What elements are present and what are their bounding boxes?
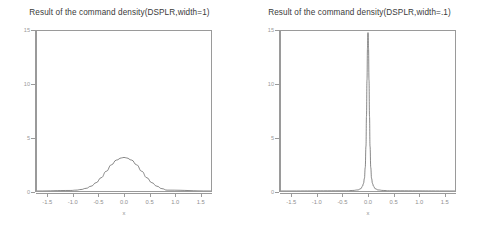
x-tick-mark [124,193,125,197]
x-tick-mark [73,193,74,197]
density-curve-right-wrap [281,31,455,191]
plot-panel-right: Result of the command density(DSPLR,widt… [240,0,479,228]
y-tick-label: 5 [258,135,274,141]
x-tick-label: -1.5 [34,199,60,205]
x-tick-label: -0.5 [329,199,355,205]
density-curve-left [37,31,211,191]
x-tick-mark [291,193,292,197]
y-tick-mark [31,84,35,85]
x-tick-mark [394,193,395,197]
x-tick-label: -1.5 [278,199,304,205]
x-tick-mark [98,193,99,197]
y-tick-label: 5 [14,135,30,141]
y-axis-line-right [279,30,280,192]
x-tick-mark [201,193,202,197]
y-tick-label: 15 [14,27,30,33]
x-tick-label: 0.0 [111,199,137,205]
x-tick-mark [368,193,369,197]
y-tick-label: 15 [258,27,274,33]
y-tick-mark [275,192,279,193]
y-tick-mark [31,30,35,31]
plot-title-right: Result of the command density(DSPLR,widt… [240,8,479,17]
x-tick-mark [445,193,446,197]
x-tick-label: 0.0 [355,199,381,205]
x-tick-mark [175,193,176,197]
y-tick-label: 10 [258,81,274,87]
plot-frame-right [280,30,456,192]
x-tick-label: 1.5 [188,199,214,205]
x-tick-label: 1.0 [162,199,188,205]
density-curve-left-wrap [37,31,211,191]
x-tick-label: -1.0 [60,199,86,205]
x-axis-title-left: x [36,210,212,216]
y-tick-mark [275,138,279,139]
y-tick-label: 0 [258,189,274,195]
x-tick-mark [342,193,343,197]
y-tick-mark [275,84,279,85]
x-tick-mark [47,193,48,197]
y-axis-line-left [35,30,36,192]
y-tick-label: 10 [14,81,30,87]
x-tick-label: 1.5 [432,199,458,205]
x-tick-label: 0.5 [381,199,407,205]
plot-frame-left [36,30,212,192]
x-axis-title-right: x [280,210,456,216]
x-tick-label: -1.0 [304,199,330,205]
y-tick-mark [275,30,279,31]
x-tick-label: 0.5 [137,199,163,205]
figure-canvas: Result of the command density(DSPLR,widt… [0,0,479,228]
x-tick-label: 1.0 [406,199,432,205]
x-tick-mark [419,193,420,197]
plot-title-left: Result of the command density(DSPLR,widt… [0,8,239,17]
density-curve-right [281,31,455,191]
plot-panel-left: Result of the command density(DSPLR,widt… [0,0,239,228]
y-tick-mark [31,138,35,139]
y-tick-label: 0 [14,189,30,195]
y-tick-mark [31,192,35,193]
x-tick-mark [150,193,151,197]
x-tick-label: -0.5 [85,199,111,205]
x-tick-mark [317,193,318,197]
